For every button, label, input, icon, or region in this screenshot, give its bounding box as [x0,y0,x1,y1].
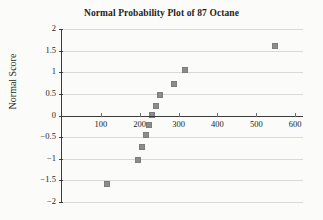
y-axis-tick [59,202,63,203]
data-point [272,43,278,49]
data-point [171,81,177,87]
gridline [62,137,303,138]
y-axis-tick-label: 0.5 [22,88,56,98]
gridline [62,29,303,30]
x-axis-tick [101,113,102,117]
x-axis-tick [140,113,141,117]
data-point [182,67,188,73]
x-axis-tick-label: 100 [81,119,121,129]
data-point [135,157,141,163]
y-axis-tick [59,116,63,117]
data-point [104,181,110,187]
y-axis-tick [59,94,63,95]
x-axis-tick [295,113,296,117]
y-axis-tick-label: 2 [22,23,56,33]
zero-axis-line [62,116,303,117]
y-axis-tick [59,29,63,30]
data-point [153,103,159,109]
y-axis-tick-label: −0.5 [22,131,56,141]
gridline [62,180,303,181]
chart-screenshot: Normal Probability Plot of 87 Octane Nor… [0,0,323,220]
y-axis-tick [59,180,63,181]
plot-area [62,29,303,202]
x-axis-tick [179,113,180,117]
y-axis-tick [59,72,63,73]
x-axis-tick [256,113,257,117]
gridline [62,202,303,203]
x-axis-tick-label: 600 [275,119,315,129]
y-axis-title: Normal Score [7,42,18,122]
x-axis-tick [217,113,218,117]
data-point [157,92,163,98]
y-axis-tick-label: −1.5 [22,174,56,184]
y-axis-tick-label: 1 [22,66,56,76]
data-point [143,132,149,138]
chart-title: Normal Probability Plot of 87 Octane [0,8,323,18]
x-axis-tick-label: 200 [120,119,160,129]
data-point [139,144,145,150]
x-axis-tick-label: 500 [236,119,276,129]
gridline [62,159,303,160]
y-axis-tick [59,137,63,138]
y-axis-tick-label: 0 [22,110,56,120]
y-axis-tick-label: 1.5 [22,45,56,55]
x-axis-tick-label: 300 [159,119,199,129]
y-axis-tick-label: −2 [22,196,56,206]
x-axis-tick-label: 400 [197,119,237,129]
y-axis-tick-label: −1 [22,153,56,163]
gridline [62,51,303,52]
y-axis-tick [59,159,63,160]
y-axis-tick [59,51,63,52]
gridline [62,94,303,95]
